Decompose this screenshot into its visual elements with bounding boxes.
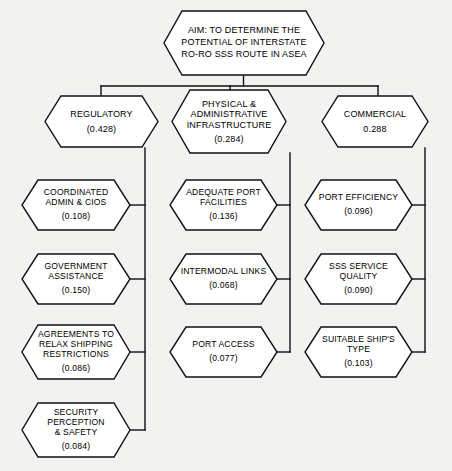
node-shape-regulatory <box>45 96 158 147</box>
node-shape-aim <box>164 11 324 75</box>
node-shape-sss-service-quality <box>305 254 412 304</box>
node-shape-port-access <box>170 327 277 377</box>
node-shape-adequate-port-facilities <box>170 180 277 230</box>
node-shape-port-efficiency <box>305 180 412 230</box>
node-shape-government-assistance <box>22 254 130 304</box>
node-shape-commercial <box>322 96 428 147</box>
node-shape-physical-admin-infra <box>172 90 286 153</box>
diagram-canvas <box>0 0 452 471</box>
connector-group-commercial-children <box>412 148 425 352</box>
connector-group-regulatory-children <box>130 148 145 430</box>
node-shape-agreements-relax-shipping <box>22 325 130 379</box>
connector-group-physical-children <box>277 153 290 352</box>
node-shape-suitable-ships-type <box>305 327 412 377</box>
node-shape-intermodal-links <box>170 254 277 304</box>
node-shape-security-perception-safety <box>22 403 130 457</box>
hierarchy-diagram: AIM: TO DETERMINE THE POTENTIAL OF INTER… <box>0 0 452 471</box>
node-shape-coordinated-admin-cios <box>22 180 130 230</box>
